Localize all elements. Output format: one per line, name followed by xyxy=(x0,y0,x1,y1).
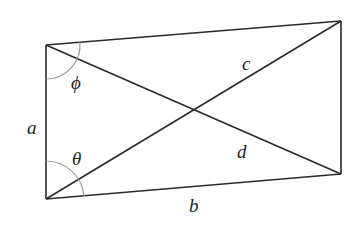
side-top xyxy=(46,21,341,45)
label-theta: θ xyxy=(72,148,81,169)
label-d: d xyxy=(237,141,247,162)
label-a: a xyxy=(27,117,37,138)
label-c: c xyxy=(242,53,251,74)
diagonal-d xyxy=(46,45,341,174)
label-b: b xyxy=(189,195,199,216)
label-phi: ϕ xyxy=(71,72,81,93)
quadrilateral-diagram: ϕ θ a b c d xyxy=(0,0,360,231)
